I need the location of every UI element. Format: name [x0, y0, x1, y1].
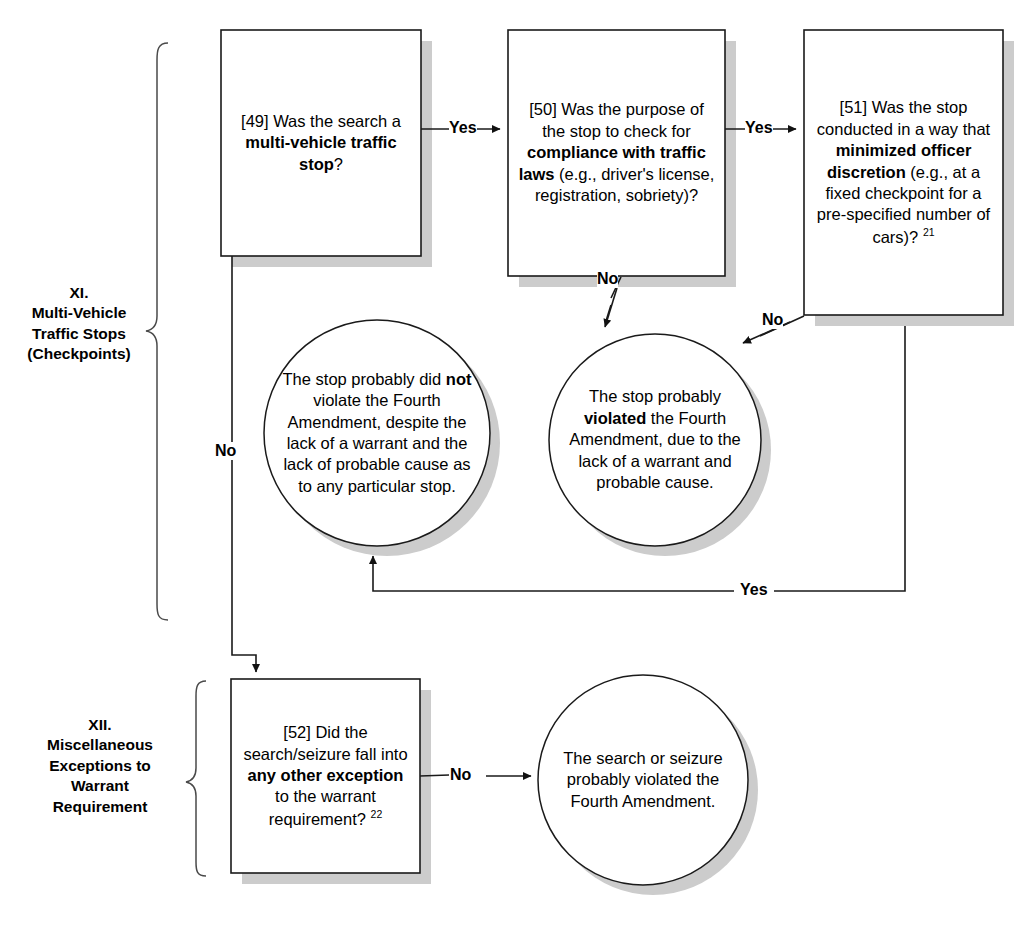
edge-label-51-no-violation: No — [762, 311, 783, 329]
node-label-outcome-search-violation: The search or seizure probably violated … — [551, 690, 735, 870]
node-label-outcome-search-violation-text: The search or seizure probably violated … — [551, 748, 735, 812]
node-label-outcome-no-violation: The stop probably did not violate the Fo… — [277, 333, 477, 533]
section-xi-line-0: XI. — [6, 283, 152, 303]
node-label-q51-text: [51] Was the stop conducted in a way tha… — [812, 97, 995, 248]
section-label-xii: XII. Miscellaneous Exceptions to Warrant… — [20, 715, 180, 817]
connector-52-no-seg — [420, 775, 449, 776]
node-label-outcome-violation-text: The stop probably violated the Fourth Am… — [562, 386, 748, 493]
connector-49-no-52 — [232, 256, 256, 672]
section-xi-line-2: Traffic Stops — [6, 324, 152, 344]
node-label-q52-text: [52] Did the search/seizure fall into an… — [239, 722, 412, 830]
node-label-q50-text: [50] Was the purpose of the stop to chec… — [516, 99, 717, 206]
node-label-outcome-no-violation-text: The stop probably did not violate the Fo… — [277, 369, 477, 498]
edge-label-49-yes-50: Yes — [449, 119, 477, 137]
flowchart-canvas: [49] Was the search a multi-vehicle traf… — [0, 0, 1034, 938]
section-label-xi: XI. Multi-Vehicle Traffic Stops (Checkpo… — [6, 283, 152, 365]
connector-50-no-violation — [605, 288, 617, 327]
section-xii-line-4: Requirement — [20, 797, 180, 817]
section-xi-line-1: Multi-Vehicle — [6, 303, 152, 323]
edge-label-49-no-52: No — [215, 442, 236, 460]
node-label-outcome-violation: The stop probably violated the Fourth Am… — [562, 345, 748, 535]
edge-label-50-yes-51: Yes — [745, 119, 773, 137]
node-label-q50: [50] Was the purpose of the stop to chec… — [516, 30, 717, 276]
brace-section-xii — [186, 681, 206, 876]
edge-label-51-yes-noviolation: Yes — [734, 581, 774, 599]
edge-label-52-no-searchviolation: No — [450, 766, 471, 784]
edge-label-50-no-violation: No — [597, 270, 618, 288]
section-xii-line-0: XII. — [20, 715, 180, 735]
node-label-q49-text: [49] Was the search a multi-vehicle traf… — [231, 111, 411, 175]
section-xii-line-3: Warrant — [20, 776, 180, 796]
section-xii-line-1: Miscellaneous — [20, 735, 180, 755]
section-xi-line-3: (Checkpoints) — [6, 344, 152, 364]
node-label-q51: [51] Was the stop conducted in a way tha… — [812, 30, 995, 315]
section-xii-line-2: Exceptions to — [20, 756, 180, 776]
node-label-q49: [49] Was the search a multi-vehicle traf… — [231, 30, 411, 256]
node-label-q52: [52] Did the search/seizure fall into an… — [239, 679, 412, 873]
